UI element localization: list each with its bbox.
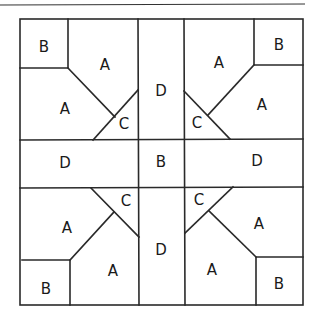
label-left-center-d: D bbox=[59, 154, 71, 172]
label-top-right-a-lower: A bbox=[257, 96, 268, 114]
label-top-left-a-upper: A bbox=[100, 56, 111, 74]
label-center-b: B bbox=[156, 153, 166, 171]
bottom-right-diagonal bbox=[209, 211, 256, 257]
vertical-line-right bbox=[184, 19, 185, 305]
label-bottom-right-a-upper: A bbox=[254, 215, 265, 233]
horizontal-line-top bbox=[20, 139, 303, 140]
label-top-left-a-lower: A bbox=[60, 100, 71, 118]
top-right-diagonal bbox=[208, 65, 254, 115]
bottom-left-diagonal bbox=[70, 212, 114, 260]
horizontal-line-bottom bbox=[20, 187, 303, 188]
label-bottom-left-b: B bbox=[41, 280, 51, 298]
label-top-right-c: C bbox=[192, 114, 202, 132]
label-bottom-left-a-upper: A bbox=[62, 219, 73, 237]
label-bottom-center-d: D bbox=[155, 241, 167, 259]
label-bottom-right-c: C bbox=[194, 191, 204, 209]
top-left-diagonal bbox=[68, 68, 115, 117]
label-top-right-a-upper: A bbox=[214, 54, 225, 72]
label-bottom-right-b: B bbox=[274, 275, 284, 293]
label-bottom-left-a-lower: A bbox=[108, 262, 119, 280]
label-top-center-d: D bbox=[155, 82, 167, 100]
label-right-center-d: D bbox=[251, 152, 263, 170]
label-top-left-c: C bbox=[119, 115, 129, 133]
label-bottom-right-a-lower: A bbox=[207, 261, 218, 279]
vertical-line-left bbox=[138, 19, 139, 305]
label-top-right-b: B bbox=[274, 36, 284, 54]
label-top-left-b: B bbox=[39, 38, 49, 56]
label-bottom-left-c: C bbox=[121, 192, 131, 210]
top-rule bbox=[0, 4, 305, 5]
quilt-block-diagram: B A A C B A A C D D B D D C A A B C A A … bbox=[0, 0, 317, 321]
top-left-c-edge bbox=[93, 90, 138, 140]
bottom-right-c-edge bbox=[185, 187, 233, 233]
